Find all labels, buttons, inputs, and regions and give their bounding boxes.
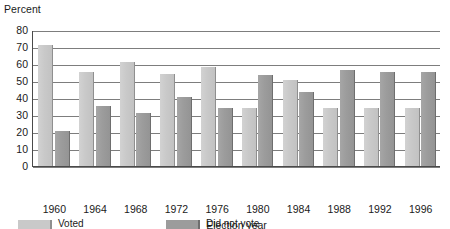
chart-legend: VotedDid not vote [18,218,438,229]
x-tick-label: 1980 [246,203,269,215]
bar [258,75,273,167]
y-tick-label: 20 [16,126,28,138]
x-tick-label: 1968 [124,203,147,215]
bar-groups [33,31,440,167]
bar [283,80,298,167]
legend-label: Did not vote [206,218,259,229]
bar [136,113,151,167]
x-tick-label: 1984 [287,203,310,215]
legend-swatch [18,220,52,229]
bar-group [405,31,437,167]
bar [79,72,94,167]
y-tick-label: 40 [16,92,28,104]
bar [55,131,70,167]
bar [201,67,216,167]
x-tick-label: 1972 [165,203,188,215]
bar [218,108,233,168]
bar [38,45,53,167]
bar [380,72,395,167]
y-axis-title: Percent [4,3,41,15]
bar [242,108,257,168]
bar-group [323,31,355,167]
legend-swatch [166,220,200,229]
bar-group [283,31,315,167]
bar [177,97,192,167]
x-axis-line [33,166,440,167]
plot-area: 80706050403020100 1960196419681972197619… [33,31,440,167]
chart-container: Percent 80706050403020100 19601964196819… [0,0,450,229]
bar [421,72,436,167]
x-tick-label: 1988 [328,203,351,215]
bar [120,62,135,167]
x-tick-label: 1964 [83,203,106,215]
bar [96,106,111,167]
x-tick-label: 1992 [368,203,391,215]
bar [405,108,420,168]
y-tick-label: 60 [16,58,28,70]
bar [299,92,314,167]
bar-group [201,31,233,167]
bar [364,108,379,168]
gridline: 0 [33,167,440,168]
y-tick-label: 80 [16,24,28,36]
y-tick-label: 50 [16,75,28,87]
y-tick-label: 0 [22,160,28,172]
bar-group [160,31,192,167]
bar-group [38,31,70,167]
legend-label: Voted [58,218,84,229]
y-tick-label: 10 [16,143,28,155]
bar [340,70,355,167]
bar [323,108,338,168]
y-tick-label: 30 [16,109,28,121]
y-tick-label: 70 [16,41,28,53]
bar-group [120,31,152,167]
bar-group [364,31,396,167]
bar [160,74,175,168]
bar-group [79,31,111,167]
x-tick-label: 1960 [43,203,66,215]
x-tick-label: 1996 [409,203,432,215]
bar-group [242,31,274,167]
x-tick-label: 1976 [205,203,228,215]
